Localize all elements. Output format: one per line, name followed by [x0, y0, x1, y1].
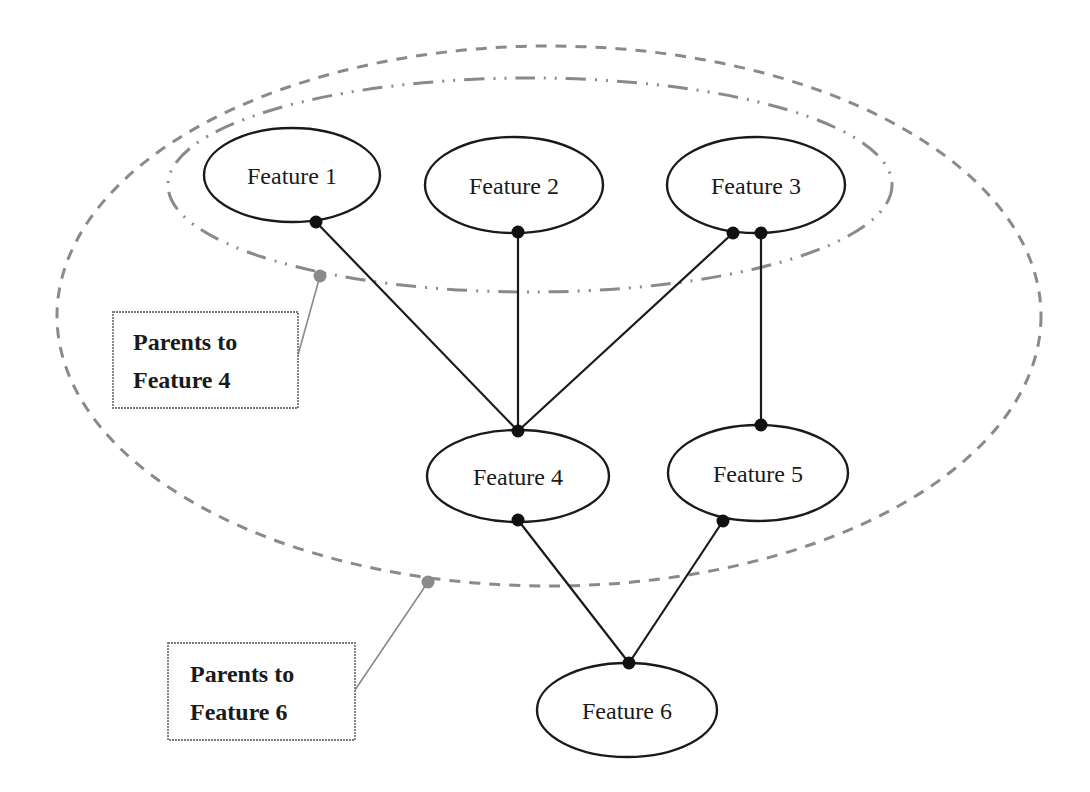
- port-feature3-bottom-right: [755, 227, 768, 240]
- port-feature2-bottom: [512, 226, 525, 239]
- node-feature-6-label: Feature 6: [582, 698, 672, 724]
- callout-text-line1: Parents to: [190, 661, 294, 687]
- callout-text-line1: Parents to: [133, 329, 237, 355]
- callout-anchor-dot: [422, 576, 435, 589]
- port-feature4-bottom: [512, 514, 525, 527]
- node-feature-2-label: Feature 2: [469, 173, 559, 199]
- callout-box: [168, 643, 355, 740]
- port-feature6-top: [623, 657, 636, 670]
- edge-feature3-feature4: [518, 233, 733, 431]
- callout-anchor-dot: [314, 270, 327, 283]
- callout-parents-to-feature-6: Parents to Feature 6: [168, 576, 435, 741]
- feature-dependency-diagram: Feature 1 Feature 2 Feature 3 Feature 4 …: [0, 0, 1090, 792]
- port-feature1-bottom: [310, 216, 323, 229]
- callout-parents-to-feature-4: Parents to Feature 4: [113, 270, 327, 409]
- callout-text-line2: Feature 4: [133, 367, 231, 393]
- edge-feature5-feature6: [629, 521, 723, 663]
- node-feature-4-label: Feature 4: [473, 464, 563, 490]
- port-feature4-top: [512, 425, 525, 438]
- node-feature-5-label: Feature 5: [713, 461, 803, 487]
- node-feature-1-label: Feature 1: [247, 163, 337, 189]
- port-feature5-bottom: [717, 515, 730, 528]
- node-feature-3-label: Feature 3: [711, 173, 801, 199]
- node-feature-5[interactable]: Feature 5: [668, 425, 848, 521]
- edge-feature1-feature4: [316, 222, 518, 431]
- node-feature-1[interactable]: Feature 1: [204, 128, 380, 222]
- edge-feature4-feature6: [518, 520, 629, 663]
- callout-leader-line: [355, 582, 428, 690]
- node-feature-6[interactable]: Feature 6: [537, 663, 717, 757]
- node-feature-3[interactable]: Feature 3: [667, 137, 845, 233]
- node-feature-2[interactable]: Feature 2: [425, 137, 603, 233]
- node-feature-4[interactable]: Feature 4: [427, 430, 609, 522]
- callout-leader-line: [298, 276, 320, 355]
- callout-box: [113, 312, 298, 408]
- port-feature5-top: [755, 419, 768, 432]
- callout-text-line2: Feature 6: [190, 699, 288, 725]
- port-feature3-bottom-left: [727, 227, 740, 240]
